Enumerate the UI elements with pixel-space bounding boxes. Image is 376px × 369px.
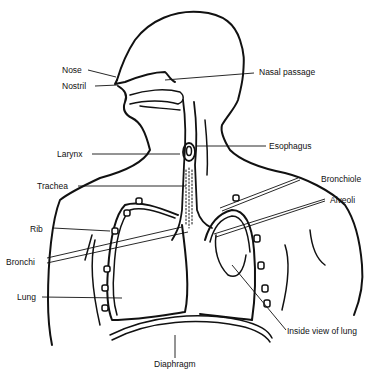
label-trachea: Trachea [37,181,68,191]
label-nostril: Nostril [62,81,86,91]
label-lung: Lung [17,292,36,302]
label-bronchi: Bronchi [6,257,35,267]
left-lung-drawing [102,198,187,320]
leader-lines [42,70,325,358]
label-nose: Nose [62,65,82,75]
respiratory-diagram: Nose Nostril Nasal passage Larynx Esopha… [0,0,376,369]
right-lung-drawing [200,195,270,320]
label-bronchiole: Bronchiole [321,174,361,184]
label-inside-view-of-lung: Inside view of lung [287,326,357,336]
label-diaphragm: Diaphragm [154,359,196,369]
label-larynx: Larynx [57,149,83,159]
trachea-drawing [172,100,212,240]
label-alveoli: Alveoli [330,195,355,205]
label-nasal-passage: Nasal passage [259,67,315,77]
label-rib: Rib [30,224,43,234]
label-esophagus: Esophagus [269,141,312,151]
body-outline [48,12,363,345]
